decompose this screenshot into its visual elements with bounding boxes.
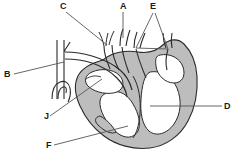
label-J: J [44, 112, 49, 121]
leader-line-E-right [155, 13, 168, 49]
leader-line-C [66, 12, 107, 45]
label-F: F [46, 141, 52, 150]
brachiocephalic-branch-vessel [99, 31, 114, 46]
inferior-vena-cava-vessel [52, 81, 70, 102]
leader-line-E-left [136, 13, 153, 48]
label-A: A [120, 2, 127, 11]
label-E: E [150, 2, 156, 11]
descending-aorta-vessel [57, 40, 70, 99]
label-D: D [224, 102, 231, 111]
heart-diagram-figure: C A E B D J F [0, 0, 236, 162]
heart-anatomy-illustration [0, 0, 236, 162]
label-B: B [4, 70, 11, 79]
label-C: C [60, 2, 67, 11]
